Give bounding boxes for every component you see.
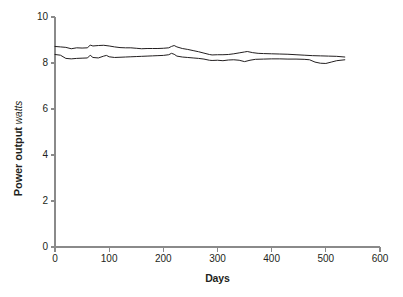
data-series-group xyxy=(55,45,345,63)
axis-ticks xyxy=(51,17,381,252)
plot-area xyxy=(0,0,403,297)
series-line-upper xyxy=(55,45,345,57)
chart-figure: Power output watts 0246810 0100200300400… xyxy=(0,0,403,297)
axis-lines xyxy=(55,17,380,247)
